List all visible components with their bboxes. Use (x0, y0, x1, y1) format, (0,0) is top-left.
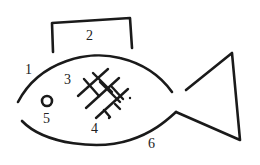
label-4: 4 (91, 121, 98, 136)
label-1: 1 (25, 62, 32, 77)
upper-body-curve (18, 55, 172, 102)
crosshatch-scales (78, 69, 131, 119)
fish-diagram: 1 2 3 4 5 6 (0, 0, 260, 165)
label-6: 6 (148, 136, 155, 151)
eye-circle (42, 96, 52, 106)
label-3: 3 (64, 72, 71, 87)
tail-fin (176, 53, 240, 140)
label-2: 2 (86, 28, 93, 43)
label-5: 5 (43, 111, 50, 126)
